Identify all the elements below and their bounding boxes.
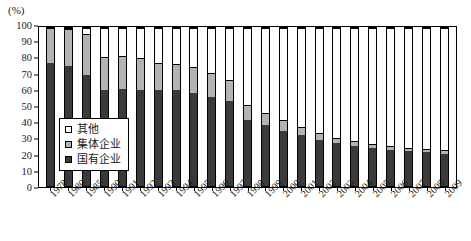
bar-segment-collective [173, 64, 180, 91]
bar-segment-collective [226, 80, 233, 101]
bar-segment-other [226, 28, 233, 80]
stacked-bar[interactable] [350, 27, 359, 187]
bar-segment-collective [101, 57, 108, 89]
bar-segment-collective [137, 58, 144, 90]
y-axis-tick-label: 10 [0, 167, 36, 178]
stacked-bar[interactable] [404, 27, 413, 187]
x-axis-label-slot: 2005 [364, 190, 382, 238]
x-axis-label-slot: 1985 [77, 190, 95, 238]
bar-segment-collective [83, 34, 90, 75]
bar-group [328, 27, 346, 187]
stacked-bar[interactable] [136, 27, 145, 187]
bar-group [239, 27, 257, 187]
chart-legend: 其他 集体企业 国有企业 [59, 118, 129, 171]
stacked-bar-chart: (%) 0102030405060708090100 1978198019851… [0, 0, 471, 241]
bar-segment-state-owned [298, 135, 305, 186]
bar-segment-state-owned [333, 143, 340, 186]
bar-segment-other [298, 28, 305, 127]
stacked-bar[interactable] [422, 27, 431, 187]
stacked-bar[interactable] [172, 27, 181, 187]
stacked-bar[interactable] [243, 27, 252, 187]
bar-segment-other [244, 28, 251, 105]
stacked-bar[interactable] [440, 27, 449, 187]
bar-group [203, 27, 221, 187]
stacked-bar[interactable] [154, 27, 163, 187]
bar-segment-other [208, 28, 215, 73]
stacked-bar[interactable] [207, 27, 216, 187]
bar-group [417, 27, 435, 187]
bar-segment-other [351, 28, 358, 141]
bar-segment-other [333, 28, 340, 138]
bar-segment-collective [47, 28, 54, 63]
legend-item-other: 其他 [65, 122, 121, 137]
bar-group [310, 27, 328, 187]
y-axis-tick-label: 90 [0, 37, 36, 48]
y-axis-tick-label: 100 [0, 21, 36, 32]
bar-segment-other [280, 28, 287, 120]
gray-square-icon [65, 141, 72, 148]
bar-group [167, 27, 185, 187]
stacked-bar[interactable] [315, 27, 324, 187]
stacked-bar[interactable] [279, 27, 288, 187]
bar-segment-state-owned [262, 125, 269, 186]
bar-segment-collective [190, 67, 197, 93]
bar-segment-other [387, 28, 394, 146]
y-axis-tick-label: 40 [0, 118, 36, 129]
y-axis-tick-label: 50 [0, 102, 36, 113]
legend-item-label: 集体企业 [77, 139, 121, 150]
y-axis-tick-label: 20 [0, 150, 36, 161]
stacked-bar[interactable] [46, 27, 55, 187]
stacked-bar[interactable] [261, 27, 270, 187]
stacked-bar[interactable] [225, 27, 234, 187]
bar-segment-state-owned [351, 146, 358, 186]
x-axis-label-slot: 1997 [221, 190, 239, 238]
bar-segment-state-owned [190, 93, 197, 186]
x-axis-label-slot: 2009 [436, 190, 454, 238]
x-axis-label-slot: 1991 [113, 190, 131, 238]
x-axis-label-slot: 2006 [382, 190, 400, 238]
legend-item-state: 国有企业 [65, 152, 121, 167]
y-axis-tick-mark [34, 139, 38, 140]
bar-group [400, 27, 418, 187]
bar-group [274, 27, 292, 187]
legend-item-label: 国有企业 [77, 154, 121, 165]
x-axis-label-slot: 1994 [167, 190, 185, 238]
bar-segment-collective [155, 63, 162, 91]
y-axis-tick-mark [34, 123, 38, 124]
stacked-bar[interactable] [386, 27, 395, 187]
legend-item-collective: 集体企业 [65, 137, 121, 152]
x-axis-label-slot: 1992 [131, 190, 149, 238]
x-axis-label-slot: 1978 [41, 190, 59, 238]
y-axis-tick-label: 80 [0, 53, 36, 64]
stacked-bar[interactable] [189, 27, 198, 187]
stacked-bar[interactable] [332, 27, 341, 187]
bar-segment-state-owned [244, 120, 251, 186]
bar-group [149, 27, 167, 187]
y-axis-tick-mark [34, 90, 38, 91]
y-axis-tick-mark [34, 155, 38, 156]
y-axis-tick-mark [34, 26, 38, 27]
bar-segment-other [101, 28, 108, 57]
x-axis-label-slot: 2001 [292, 190, 310, 238]
bar-group [42, 27, 60, 187]
x-axis-label-slot: 2002 [310, 190, 328, 238]
y-axis-unit-label: (%) [8, 4, 25, 16]
bar-segment-other [262, 28, 269, 113]
bar-group [292, 27, 310, 187]
bar-group [131, 27, 149, 187]
white-square-icon [65, 126, 72, 133]
y-axis-tick-label: 0 [0, 183, 36, 194]
bar-segment-collective [316, 133, 323, 140]
bar-segment-state-owned [316, 140, 323, 186]
bar-segment-state-owned [280, 131, 287, 186]
bar-segment-other [137, 28, 144, 58]
dark-square-icon [65, 156, 72, 163]
x-axis-label-slot: 1990 [95, 190, 113, 238]
bar-group [435, 27, 453, 187]
y-axis-tick-label: 30 [0, 134, 36, 145]
stacked-bar[interactable] [368, 27, 377, 187]
stacked-bar[interactable] [297, 27, 306, 187]
x-axis-label-slot: 1998 [238, 190, 256, 238]
bar-segment-collective [262, 113, 269, 125]
bar-segment-collective [298, 127, 305, 136]
